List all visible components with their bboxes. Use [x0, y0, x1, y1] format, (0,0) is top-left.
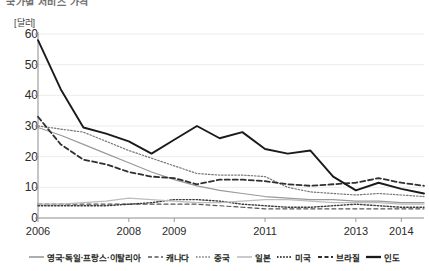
legend-item-영국·독일·프랑스·이탈리아[interactable]: 영국·독일·프랑스·이탈리아 — [29, 251, 141, 263]
chart-page: 국가별 서비스 가격 [달러] 0102030405060 2006200820… — [0, 0, 429, 271]
series-line-브라질 — [38, 117, 424, 186]
x-axis-tick-label: 2014 — [389, 225, 413, 237]
chart-legend: 영국·독일·프랑스·이탈리아캐나다중국일본미국브라질인도 — [0, 246, 429, 268]
line-chart-svg — [0, 26, 429, 222]
legend-item-중국[interactable]: 중국 — [196, 251, 230, 263]
x-axis-tick-label: 2008 — [117, 225, 141, 237]
legend-swatch-icon — [29, 253, 44, 261]
legend-item-label: 미국 — [295, 251, 311, 263]
legend-item-label: 일본 — [255, 251, 271, 263]
legend-item-캐나다[interactable]: 캐나다 — [148, 251, 189, 263]
legend-item-label: 캐나다 — [166, 251, 189, 263]
series-line-영국·독일·프랑스·이탈리아 — [38, 128, 424, 203]
legend-item-label: 영국·독일·프랑스·이탈리아 — [47, 251, 141, 263]
legend-item-인도[interactable]: 인도 — [366, 251, 400, 263]
legend-swatch-icon — [366, 253, 381, 261]
legend-item-label: 중국 — [214, 251, 230, 263]
legend-item-label: 브라질 — [336, 251, 359, 263]
legend-item-미국[interactable]: 미국 — [277, 251, 311, 263]
legend-swatch-icon — [318, 253, 333, 261]
legend-item-label: 인도 — [384, 251, 400, 263]
plot-area — [0, 26, 429, 222]
legend-item-브라질[interactable]: 브라질 — [318, 251, 359, 263]
legend-swatch-icon — [277, 253, 292, 261]
x-axis-tick-label: 2009 — [162, 225, 186, 237]
x-axis-tick-label: 2006 — [26, 225, 50, 237]
x-axis-tick-label: 2011 — [253, 225, 277, 237]
x-axis-labels: 200620082009201120132014 — [0, 224, 429, 240]
legend-swatch-icon — [237, 253, 252, 261]
legend-item-일본[interactable]: 일본 — [237, 251, 271, 263]
x-axis-tick-label: 2013 — [344, 225, 368, 237]
legend-swatch-icon — [196, 253, 211, 261]
page-title-clipped: 국가별 서비스 가격 — [6, 0, 206, 6]
legend-swatch-icon — [148, 253, 163, 261]
series-line-인도 — [38, 40, 424, 193]
